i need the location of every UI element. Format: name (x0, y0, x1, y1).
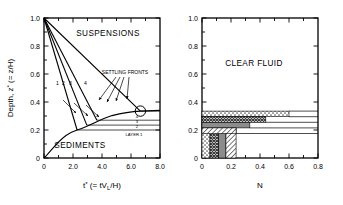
left-panel: 1.0 0.8 0.6 0.4 0.2 0 0 2.0 4.0 6.0 8.0 … (0, 0, 172, 205)
left-xticklabel-8: 8.0 (155, 163, 165, 170)
right-x-ticklabels: 0 0.2 0.4 0.6 0.8 (200, 163, 323, 170)
right-panel: 1.0 0.8 0.6 0.4 0.2 0 0 0.2 0.4 0.6 0.8 … (172, 0, 343, 205)
left-y-ticklabels: 1.0 0.8 0.6 0.4 0.2 0 (30, 15, 40, 162)
xaxis-paren-close: /H) (110, 181, 121, 190)
right-xticklabel-06: 0.6 (284, 163, 294, 170)
line-number-3: 3 (69, 80, 72, 86)
horizontal-band-2 (202, 122, 250, 128)
right-yticklabel-0: 0 (194, 155, 198, 162)
horizontal-band-4 (202, 111, 289, 117)
horizontal-band-3 (202, 117, 266, 123)
right-xaxis-title: N (257, 181, 263, 190)
yaxis-rest: (= z/H) (6, 58, 15, 83)
region-label-clear-fluid: CLEAR FLUID (225, 59, 283, 68)
right-yticklabel-04: 0.4 (188, 99, 198, 106)
right-xticklabel-04: 0.4 (255, 163, 265, 170)
right-xticklabel-02: 0.2 (226, 163, 236, 170)
xaxis-paren-open: (= tV (90, 181, 108, 190)
region-label-suspensions: SUSPENSIONS (76, 29, 140, 38)
left-yticklabel-02: 0.2 (30, 127, 40, 134)
line-number-4: 4 (84, 80, 87, 86)
left-xticklabel-2: 2.0 (68, 163, 78, 170)
left-xaxis-title: t* (= tVL/H) (83, 181, 121, 192)
left-yticklabel-08: 0.8 (30, 43, 40, 50)
right-xticklabel-0: 0 (200, 163, 204, 170)
label-settling-fronts: SETTLING FRONTS (102, 69, 149, 75)
svg-text:t* (= tVL/H): t* (= tVL/H) (83, 181, 121, 192)
left-yaxis-title: Depth, z* (= z/H) (6, 58, 16, 117)
region-label-sediments: SEDIMENTS (54, 141, 106, 150)
right-y-ticklabels: 1.0 0.8 0.6 0.4 0.2 0 (188, 15, 198, 162)
figure-container: 1.0 0.8 0.6 0.4 0.2 0 0 2.0 4.0 6.0 8.0 … (0, 0, 343, 205)
left-yticklabel-06: 0.6 (30, 71, 40, 78)
right-yticklabel-06: 0.6 (188, 71, 198, 78)
left-yticklabel-0: 0 (36, 155, 40, 162)
line-number-1: 1 (56, 80, 59, 86)
right-yticklabel-08: 0.8 (188, 43, 198, 50)
left-x-ticklabels: 0 2.0 4.0 6.0 8.0 (42, 163, 165, 170)
line-number-2: 2 (62, 80, 65, 86)
svg-text:Depth, z* (= z/H): Depth, z* (= z/H) (6, 58, 16, 117)
left-plot-frame (44, 18, 160, 158)
left-panel-svg: 1.0 0.8 0.6 0.4 0.2 0 0 2.0 4.0 6.0 8.0 … (0, 0, 172, 205)
left-yticklabel-04: 0.4 (30, 99, 40, 106)
left-xticklabel-4: 4.0 (97, 163, 107, 170)
right-panel-svg: 1.0 0.8 0.6 0.4 0.2 0 0 0.2 0.4 0.6 0.8 … (172, 0, 343, 205)
right-xticklabel-08: 0.8 (313, 163, 323, 170)
yaxis-base: Depth, z (6, 88, 15, 118)
layer-label-1: LAYER 1 (126, 132, 144, 137)
left-yticklabel-1: 1.0 (30, 15, 40, 22)
left-xticklabel-6: 6.0 (126, 163, 136, 170)
horizontal-band-1 (202, 128, 236, 134)
right-yticklabel-02: 0.2 (188, 127, 198, 134)
left-xticklabel-0: 0 (42, 163, 46, 170)
right-yticklabel-1: 1.0 (188, 15, 198, 22)
